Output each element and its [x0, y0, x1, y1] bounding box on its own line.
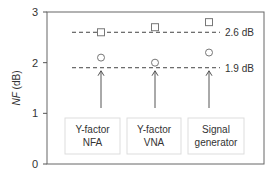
circle-marker — [206, 49, 213, 56]
square-marker — [152, 24, 159, 31]
reference-line-label: 2.6 dB — [225, 27, 254, 38]
method-label-line2: NFA — [83, 137, 103, 148]
method-label-line1: Signal — [202, 124, 230, 135]
method-label-line2: VNA — [144, 137, 165, 148]
method-label-line2: generator — [195, 137, 238, 148]
y-axis-label: NF (dB) — [11, 70, 22, 105]
y-tick-label: 3 — [32, 6, 38, 18]
y-label-unit: (dB) — [11, 70, 22, 92]
y-axis: 0123 — [32, 6, 47, 170]
square-marker — [98, 29, 105, 36]
arrows — [98, 71, 212, 108]
y-tick-label: 2 — [32, 57, 38, 69]
square-marker — [206, 19, 213, 26]
y-tick-label: 1 — [32, 107, 38, 119]
method-boxes: Y-factorNFAY-factorVNASignalgenerator — [65, 118, 244, 154]
circle-marker — [98, 54, 105, 61]
nf-chart: 0123 NF (dB) 2.6 dB1.9 dB Y-factorNFAY-f… — [0, 0, 275, 180]
method-label-line1: Y-factor — [137, 124, 172, 135]
y-label-nf: NF — [11, 91, 22, 105]
y-tick-label: 0 — [32, 158, 38, 170]
method-label-line1: Y-factor — [75, 124, 110, 135]
reference-line-label: 1.9 dB — [225, 63, 254, 74]
circle-marker — [152, 59, 159, 66]
markers — [98, 19, 213, 67]
